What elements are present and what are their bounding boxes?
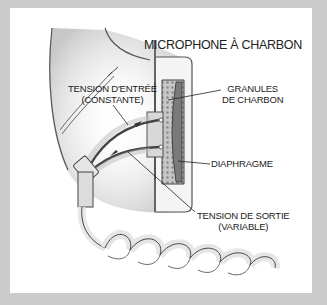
label-input-voltage: TENSION D'ENTRÉE (CONSTANTE) bbox=[68, 83, 157, 105]
diagram-title: MICROPHONE À CHARBON bbox=[144, 38, 302, 52]
label-carbon-granules: GRANULES DE CHARBON bbox=[222, 83, 283, 105]
label-output-voltage-line2: (VARIABLE) bbox=[197, 221, 290, 232]
label-carbon-granules-line2: DE CHARBON bbox=[222, 94, 283, 105]
label-carbon-granules-line1: GRANULES bbox=[222, 83, 283, 94]
label-output-voltage: TENSION DE SORTIE (VARIABLE) bbox=[197, 210, 290, 232]
label-diaphragm-line1: DIAPHRAGME bbox=[211, 158, 273, 169]
label-diaphragm: DIAPHRAGME bbox=[211, 158, 273, 169]
label-input-voltage-line2: (CONSTANTE) bbox=[68, 94, 157, 105]
label-output-voltage-line1: TENSION DE SORTIE bbox=[197, 210, 290, 221]
label-input-voltage-line1: TENSION D'ENTRÉE bbox=[68, 83, 157, 94]
